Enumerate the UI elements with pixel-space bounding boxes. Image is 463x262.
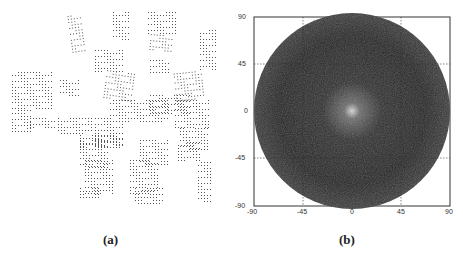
x-tick: 90 xyxy=(445,208,453,215)
x-tick: 45 xyxy=(397,208,405,215)
y-tick: -45 xyxy=(235,154,245,161)
y-tick: -90 xyxy=(235,202,245,209)
y-tick: 0 xyxy=(244,107,248,114)
y-tick: 90 xyxy=(238,13,246,20)
dotted-array-tiles xyxy=(0,0,230,230)
x-tick: 0 xyxy=(350,208,354,215)
panel-b-radiation-pattern: 90 45 0 -45 -90 -90 -45 0 45 90 (b) xyxy=(230,0,463,230)
panel-a-label: (a) xyxy=(103,232,118,248)
x-tick: -45 xyxy=(297,208,307,215)
panel-a-array-layout: (a) xyxy=(0,0,230,230)
pattern-plot xyxy=(230,0,463,230)
x-tick: -90 xyxy=(247,208,257,215)
figure-caption-fragment xyxy=(6,250,458,262)
y-tick: 45 xyxy=(238,60,246,67)
panel-b-label: (b) xyxy=(339,232,355,248)
